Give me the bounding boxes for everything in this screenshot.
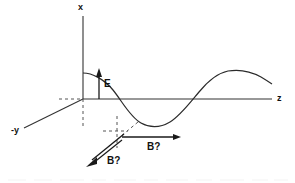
axis-label-negative-y: -y [11, 126, 19, 135]
physics-figure: x -y z E B? B? [0, 0, 295, 183]
axis-group [24, 16, 272, 128]
b-vector-left-arrowhead [86, 157, 97, 167]
vector-label-b-right: B? [147, 142, 160, 152]
axis-label-z: z [277, 94, 282, 103]
axis-label-x: x [78, 3, 83, 12]
vector-label-b-left: B? [107, 156, 120, 166]
vector-label-e: E [104, 79, 111, 89]
origin-dashed-guides [59, 99, 83, 129]
axis-negative-y-line [24, 99, 83, 128]
b-vector-right-arrow [122, 134, 181, 140]
e-vector-arrowhead [96, 68, 102, 77]
e-vector-arrow [96, 68, 102, 99]
figure-canvas [0, 0, 295, 183]
b-vector-right-arrowhead [173, 134, 181, 140]
